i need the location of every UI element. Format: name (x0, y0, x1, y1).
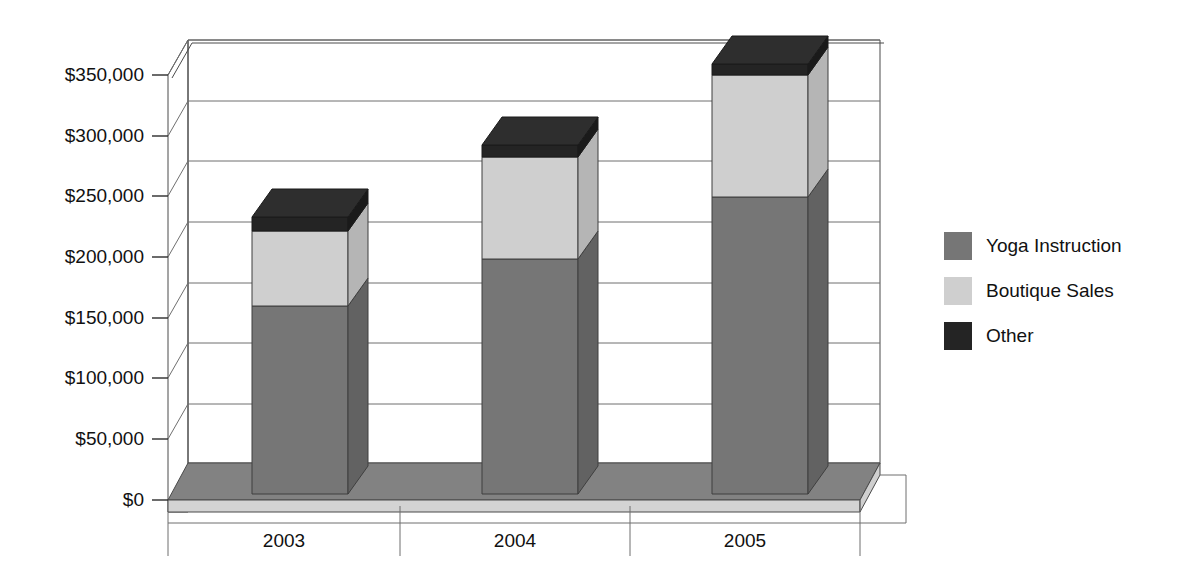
segment-front-face (482, 259, 578, 494)
y-axis-label-200000: $200,000 (65, 246, 144, 267)
segment-side-face (348, 278, 368, 494)
x-axis-label-2003: 2003 (263, 530, 305, 551)
legend-label-yoga-instruction: Yoga Instruction (986, 235, 1122, 256)
y-axis-label-50000: $50,000 (75, 428, 144, 449)
segment-front-face (482, 145, 578, 157)
legend-item-other[interactable]: Other (944, 322, 1034, 350)
bar-segment-2005-yoga-instruction[interactable] (712, 169, 828, 494)
y-axis-label-250000: $250,000 (65, 185, 144, 206)
bar-segment-2003-yoga-instruction[interactable] (252, 278, 368, 494)
y-axis-label-350000: $350,000 (65, 64, 144, 85)
segment-top-face (252, 189, 368, 217)
segment-side-face (578, 231, 598, 494)
y-axis-label-100000: $100,000 (65, 367, 144, 388)
ceiling-edge-inner (172, 43, 192, 78)
bar-segment-2003-other[interactable] (252, 189, 368, 231)
chart-container: $350,000 $300,000 $250,000 $200,000 $150… (0, 0, 1201, 578)
floor-front-face (168, 500, 860, 512)
legend: Yoga Instruction Boutique Sales Other (944, 232, 1122, 350)
bar-group-2005[interactable] (712, 36, 828, 494)
segment-front-face (482, 157, 578, 259)
bar-segment-2004-yoga-instruction[interactable] (482, 231, 598, 494)
y-axis-ticks (152, 75, 168, 500)
segment-top-face (482, 117, 598, 145)
bar-segment-2005-other[interactable] (712, 36, 828, 75)
y-axis-label-0: $0 (123, 489, 144, 510)
stacked-column-chart: $350,000 $300,000 $250,000 $200,000 $150… (0, 0, 1201, 578)
legend-swatch-boutique-sales (944, 277, 972, 305)
segment-front-face (712, 75, 808, 197)
segment-front-face (712, 64, 808, 75)
segment-front-face (712, 197, 808, 494)
y-axis-label-150000: $150,000 (65, 307, 144, 328)
x-axis-label-2005: 2005 (724, 530, 766, 551)
segment-front-face (252, 217, 348, 231)
legend-label-other: Other (986, 325, 1034, 346)
y-axis-label-300000: $300,000 (65, 125, 144, 146)
segment-side-face (808, 169, 828, 494)
legend-label-boutique-sales: Boutique Sales (986, 280, 1114, 301)
legend-item-boutique-sales[interactable]: Boutique Sales (944, 277, 1114, 305)
x-axis-labels: 2003 2004 2005 (263, 530, 766, 551)
segment-top-face (712, 36, 828, 64)
legend-swatch-other (944, 322, 972, 350)
segment-front-face (252, 231, 348, 306)
bar-group-2003[interactable] (252, 189, 368, 494)
bar-group-2004[interactable] (482, 117, 598, 494)
x-axis-label-2004: 2004 (494, 530, 537, 551)
bar-segment-2004-other[interactable] (482, 117, 598, 157)
segment-front-face (252, 306, 348, 494)
legend-item-yoga-instruction[interactable]: Yoga Instruction (944, 232, 1122, 260)
y-axis-labels: $350,000 $300,000 $250,000 $200,000 $150… (65, 64, 144, 510)
legend-swatch-yoga-instruction (944, 232, 972, 260)
